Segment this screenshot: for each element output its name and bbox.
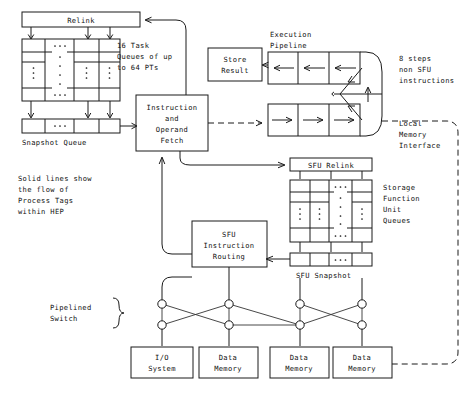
fetch-line-2: and <box>165 114 179 123</box>
store-result-line-1: Store <box>223 55 246 64</box>
storage-function-unit-queues-label: Storage Function Unit Queues <box>383 183 420 225</box>
task-queues-label: 16 Task Queues of up to 64 PTs <box>117 41 172 72</box>
fetch-to-sfu-relink-arrow <box>180 151 285 168</box>
switch-node-bottom-4 <box>358 321 366 329</box>
sfu-queues-grid <box>290 180 372 242</box>
switch-to-sfu-routing-line <box>162 277 192 300</box>
switch-node-bottom-3 <box>296 321 304 329</box>
switch-node-top-3 <box>296 300 304 308</box>
snapshot-queue-block: Snapshot Queue <box>22 119 120 147</box>
sfu-snapshot-label: SFU Snapshot <box>296 271 351 280</box>
data-memory-3-line-2: Memory <box>348 364 376 373</box>
queues-to-snapshot-arrows <box>28 101 113 118</box>
switch-node-top-4 <box>358 300 366 308</box>
sfuq-line-4: Queues <box>383 216 411 225</box>
data-memory-2-block: Data Memory <box>270 347 329 378</box>
diagram-canvas: Relink <box>0 0 474 396</box>
store-result-line-2: Result <box>221 66 249 75</box>
legend-note: Solid lines show the flow of Process Tag… <box>18 174 92 216</box>
pipelined-switch-line-1: Pipelined <box>50 303 92 312</box>
legend-line-4: within HEP <box>18 207 64 216</box>
lmi-line-2: Memory <box>399 130 427 139</box>
task-queue-grid <box>22 39 120 101</box>
sfu-relink-block: SFU Relink <box>290 158 372 171</box>
sfu-relink-to-queues-connectors <box>300 171 362 179</box>
switch-node-top-1 <box>158 300 166 308</box>
relink-label: Relink <box>67 16 95 25</box>
sfu-routing-to-fetch-arrow <box>159 157 192 254</box>
sfu-routing-line-1: SFU <box>222 230 236 239</box>
relink-block: Relink <box>22 12 140 27</box>
fetch-line-1: Instruction <box>147 103 198 112</box>
fetch-line-3: Operand <box>156 125 188 134</box>
data-memory-3-line-1: Data <box>353 353 371 362</box>
sfu-queues-to-snapshot-connectors <box>300 242 362 252</box>
non-sfu-line-2: non SFU <box>399 65 431 74</box>
sfuq-line-1: Storage <box>383 183 415 192</box>
pipelined-switch-line-2: Switch <box>50 314 78 323</box>
pipeline-to-store-result-arrow <box>262 62 269 68</box>
lmi-line-1: Local <box>399 119 422 128</box>
task-queues-line-2: Queues of up <box>117 52 172 61</box>
pipeline-u-turn <box>332 52 382 136</box>
execution-pipeline-top-row <box>268 52 360 84</box>
local-memory-interface-path <box>382 121 458 364</box>
switch-node-top-2 <box>225 300 233 308</box>
data-memory-1-line-2: Memory <box>214 364 242 373</box>
sfu-instruction-routing-block: SFU Instruction Routing <box>192 221 267 267</box>
sfuq-line-2: Function <box>383 194 420 203</box>
sfuq-line-3: Unit <box>383 205 401 214</box>
pipelined-switch-label: Pipelined Switch <box>50 303 92 323</box>
sfu-routing-line-3: Routing <box>213 252 245 261</box>
relink-to-queues-arrows <box>28 27 113 39</box>
legend-line-3: Process Tags <box>18 196 73 205</box>
snapshot-to-fetch-arrow <box>120 123 137 129</box>
io-system-line-2: System <box>148 364 176 373</box>
hep-architecture-diagram: Relink <box>0 0 474 396</box>
lmi-line-3: Interface <box>399 141 441 150</box>
data-memory-1-line-1: Data <box>219 353 237 362</box>
sfu-relink-label: SFU Relink <box>308 161 355 170</box>
instruction-operand-fetch-block: Instruction and Operand Fetch <box>136 95 208 151</box>
io-system-block: I/O System <box>131 347 193 378</box>
sfu-routing-line-2: Instruction <box>204 241 255 250</box>
execution-pipeline-bottom-row <box>268 104 360 136</box>
legend-line-1: Solid lines show <box>18 174 92 183</box>
fetch-to-pipeline-dashed <box>208 120 262 126</box>
legend-line-2: the flow of <box>18 185 69 194</box>
sfu-snapshot-block: SFU Snapshot <box>290 253 372 280</box>
fetch-line-4: Fetch <box>160 136 183 145</box>
store-result-block: Store Result <box>208 48 262 81</box>
task-queues-line-1: 16 Task <box>117 41 150 50</box>
sfu-snapshot-to-routing-arrow <box>266 256 290 262</box>
switch-node-bottom-2 <box>225 321 233 329</box>
non-sfu-line-3: instructions <box>399 76 454 85</box>
data-memory-1-block: Data Memory <box>199 347 258 378</box>
task-queues-line-3: to 64 PTs <box>117 63 159 72</box>
non-sfu-line-1: 8 steps <box>399 54 431 63</box>
data-memory-3-block: Data Memory <box>333 347 392 378</box>
execution-pipeline-label: Execution Pipeline <box>270 30 312 50</box>
execution-pipeline-line-1: Execution <box>270 30 312 39</box>
non-sfu-steps-label: 8 steps non SFU instructions <box>399 54 454 85</box>
sfu-snapshot-to-switch-lines <box>300 278 362 300</box>
pipelined-switch-network <box>158 300 366 346</box>
execution-pipeline-line-2: Pipeline <box>270 41 307 50</box>
data-memory-2-line-1: Data <box>290 353 308 362</box>
snapshot-queue-label: Snapshot Queue <box>22 138 87 147</box>
pipelined-switch-brace <box>113 298 124 328</box>
local-memory-interface-label: Local Memory Interface <box>399 119 441 150</box>
data-memory-2-line-2: Memory <box>285 364 313 373</box>
io-system-line-1: I/O <box>155 353 169 362</box>
switch-node-bottom-1 <box>158 321 166 329</box>
